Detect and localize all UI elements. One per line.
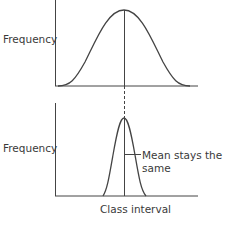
bottom-y-axis-label: Frequency xyxy=(3,142,57,154)
top-y-axis-label: Frequency xyxy=(3,33,57,45)
x-axis-label: Class interval xyxy=(100,203,171,215)
annotation-line-2: same xyxy=(142,162,171,174)
annotation-line-1: Mean stays the xyxy=(142,149,222,161)
